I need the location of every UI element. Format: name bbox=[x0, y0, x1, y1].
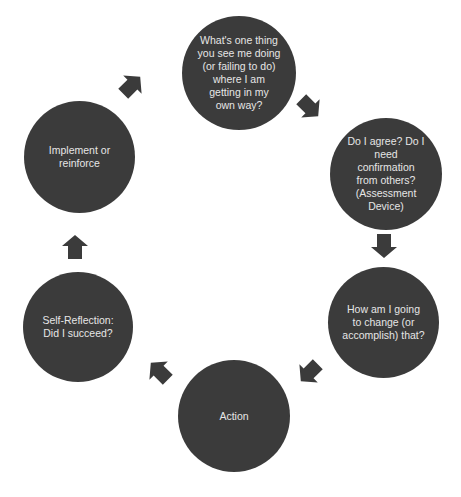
arrow-question-to-assess-icon bbox=[292, 90, 327, 125]
arrow-implement-to-question-icon bbox=[114, 68, 149, 103]
arrow-assess-to-plan-icon bbox=[371, 234, 397, 258]
arrow-reflect-to-implement-icon bbox=[62, 235, 88, 259]
cycle-diagram: What's one thing you see me doing (or fa… bbox=[0, 0, 461, 497]
arrow-plan-to-action-icon bbox=[292, 355, 327, 390]
arrow-action-to-reflect-icon bbox=[142, 354, 177, 389]
arrows-layer bbox=[0, 0, 461, 497]
